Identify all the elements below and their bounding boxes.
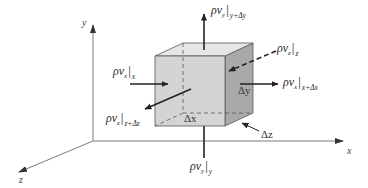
x-axis-label: x <box>347 146 351 156</box>
dz-label: Δz <box>261 129 273 140</box>
dx-label: Δx <box>184 113 197 124</box>
dy-label: Δy <box>238 85 251 96</box>
flux-z-out-label: ρvz|z+Δz <box>106 111 140 124</box>
y-axis-label: y <box>82 18 86 28</box>
z-axis <box>19 141 93 172</box>
control-volume-diagram <box>0 0 368 188</box>
flux-y-in-label: ρvy|y <box>190 159 212 172</box>
z-axis-label: z <box>19 175 23 185</box>
flux-y-out-label: ρvy|y+Δy <box>211 3 246 16</box>
dz-pointer-arrow <box>242 123 259 131</box>
flux-x-in-label: ρvx|x <box>113 64 135 77</box>
flux-z-in-label: ρvz|z <box>277 41 298 54</box>
flux-x-out-label: ρvx|x+Δx <box>283 75 318 88</box>
